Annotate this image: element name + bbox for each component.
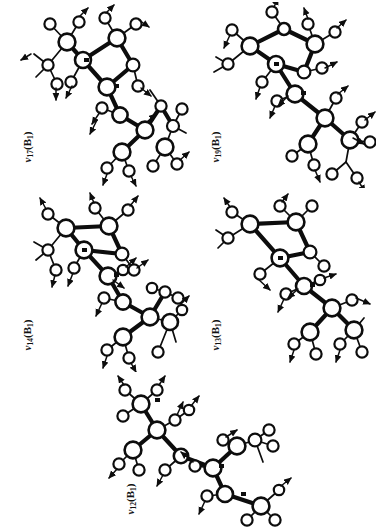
mode-panel-nu13: ν13(B1) (198, 192, 376, 372)
symmetry-index-nu17: 1 (26, 135, 35, 139)
mode-panel-nu19: ν19(B1) (198, 2, 376, 188)
atom-set (42, 12, 187, 176)
symmetry-index-nu19: 1 (214, 135, 223, 139)
atom-set (113, 384, 284, 525)
symmetry-nu14: B (21, 327, 33, 334)
mode-index-nu14: 14 (26, 338, 35, 346)
symmetry-nu13: B (209, 327, 221, 334)
atom-set (222, 200, 367, 359)
molecule-diagram-nu13 (198, 192, 376, 372)
molecule-diagram-nu17 (10, 2, 190, 188)
mode-index-nu19: 19 (214, 150, 223, 158)
mode-label-nu12: ν12(B1) (125, 484, 137, 515)
mode-panel-nu17: ν17(B1) (10, 2, 190, 188)
vibrational-mode-figure: ν17(B1) (0, 0, 377, 531)
symmetry-nu12: B (124, 491, 136, 498)
atom-set (222, 6, 375, 183)
molecule-diagram-nu14 (10, 192, 190, 372)
mode-label-nu13: ν13(B1) (210, 320, 222, 351)
mode-index-nu12: 12 (129, 502, 138, 510)
molecule-diagram-nu19 (198, 2, 376, 188)
mode-label-nu14: ν14(B1) (22, 320, 34, 351)
symmetry-index-nu13: 1 (214, 323, 223, 327)
mode-index-nu13: 13 (214, 338, 223, 346)
symmetry-nu17: B (21, 139, 33, 146)
atom-set (42, 202, 187, 363)
mode-label-nu17: ν17(B1) (22, 132, 34, 163)
mode-panel-nu12: ν12(B1) (95, 374, 295, 531)
mode-panel-nu14: ν14(B1) (10, 192, 190, 372)
mode-label-nu19: ν19(B1) (210, 132, 222, 163)
symmetry-index-nu12: 1 (129, 487, 138, 491)
mode-index-nu17: 17 (26, 150, 35, 158)
symmetry-nu19: B (209, 139, 221, 146)
symmetry-index-nu14: 1 (26, 323, 35, 327)
